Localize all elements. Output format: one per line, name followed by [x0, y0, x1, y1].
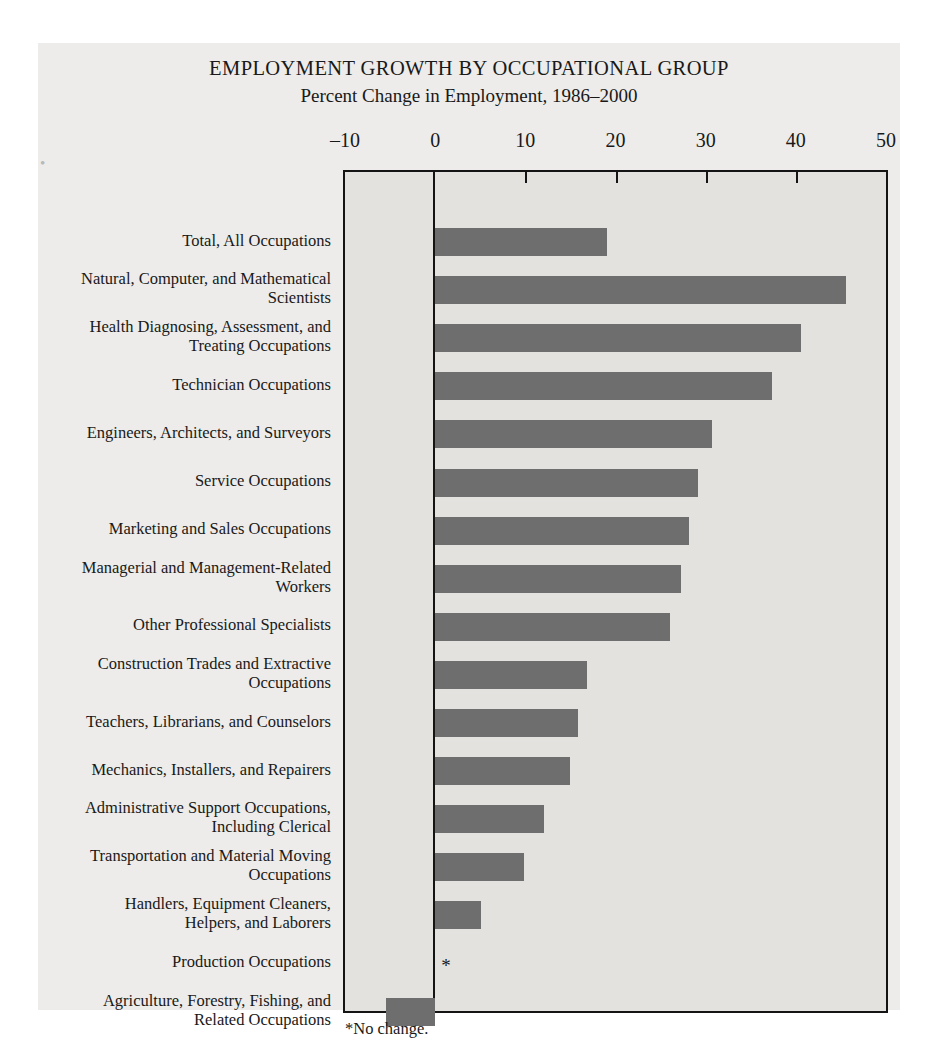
category-label-line: Treating Occupations: [38, 336, 331, 355]
x-tick-mark-5: [796, 172, 798, 183]
bar: [435, 613, 669, 641]
bar: [435, 324, 801, 352]
category-label-line: Production Occupations: [38, 952, 331, 971]
bar: [435, 901, 481, 929]
x-tick-label-1: 0: [430, 129, 440, 152]
category-label-line: Occupations: [38, 673, 331, 692]
x-tick-label-0: –10: [330, 129, 360, 152]
category-label-line: Managerial and Management-Related: [38, 558, 331, 577]
category-label-line: Teachers, Librarians, and Counselors: [38, 712, 331, 731]
chart-title: EMPLOYMENT GROWTH BY OCCUPATIONAL GROUP: [38, 57, 900, 80]
category-label-line: Workers: [38, 577, 331, 596]
x-tick-label-6: 50: [876, 129, 896, 152]
category-label: Total, All Occupations: [38, 231, 331, 250]
x-tick-label-5: 40: [786, 129, 806, 152]
category-label-line: Total, All Occupations: [38, 231, 331, 250]
category-label-line: Related Occupations: [38, 1010, 331, 1029]
category-label-line: Administrative Support Occupations,: [38, 798, 331, 817]
category-label-line: Service Occupations: [38, 471, 331, 490]
category-label-line: Agriculture, Forestry, Fishing, and: [38, 991, 331, 1010]
category-label: Managerial and Management-RelatedWorkers: [38, 558, 331, 596]
category-label: Marketing and Sales Occupations: [38, 519, 331, 538]
category-label-line: Scientists: [38, 288, 331, 307]
x-tick-mark-4: [706, 172, 708, 183]
bar: [435, 420, 712, 448]
bar: [435, 661, 586, 689]
category-label: Agriculture, Forestry, Fishing, andRelat…: [38, 991, 331, 1029]
category-label-line: Construction Trades and Extractive: [38, 654, 331, 673]
bar: [435, 517, 689, 545]
no-change-marker: *: [441, 956, 451, 975]
category-label: Health Diagnosing, Assessment, andTreati…: [38, 317, 331, 355]
chart-footnote: *No change.: [345, 1019, 428, 1039]
bar: [435, 565, 681, 593]
bar: [435, 853, 524, 881]
category-label: Technician Occupations: [38, 375, 331, 394]
category-label-line: Including Clerical: [38, 817, 331, 836]
category-label: Service Occupations: [38, 471, 331, 490]
x-tick-label-4: 30: [696, 129, 716, 152]
x-tick-mark-2: [525, 172, 527, 183]
chart-subtitle: Percent Change in Employment, 1986–2000: [38, 85, 900, 107]
x-tick-mark-3: [616, 172, 618, 183]
x-tick-label-2: 10: [515, 129, 535, 152]
category-label-line: Handlers, Equipment Cleaners,: [38, 894, 331, 913]
category-label: Construction Trades and ExtractiveOccupa…: [38, 654, 331, 692]
category-label: Transportation and Material MovingOccupa…: [38, 846, 331, 884]
category-label: Handlers, Equipment Cleaners,Helpers, an…: [38, 894, 331, 932]
category-label-line: Occupations: [38, 865, 331, 884]
category-label-line: Other Professional Specialists: [38, 615, 331, 634]
bar: [435, 709, 577, 737]
bar: [435, 228, 607, 256]
category-label-line: Helpers, and Laborers: [38, 913, 331, 932]
category-label: Other Professional Specialists: [38, 615, 331, 634]
bar: [435, 805, 544, 833]
category-label: Administrative Support Occupations,Inclu…: [38, 798, 331, 836]
bar: [435, 372, 772, 400]
category-axis-labels: Total, All OccupationsNatural, Computer,…: [38, 170, 337, 1013]
category-label: Engineers, Architects, and Surveyors: [38, 423, 331, 442]
category-label: Teachers, Librarians, and Counselors: [38, 712, 331, 731]
x-tick-label-3: 20: [606, 129, 626, 152]
bar: [435, 469, 697, 497]
bar: [435, 276, 846, 304]
category-label-line: Transportation and Material Moving: [38, 846, 331, 865]
plot-area: *: [343, 170, 888, 1013]
category-label-line: Health Diagnosing, Assessment, and: [38, 317, 331, 336]
bar: [435, 757, 570, 785]
category-label-line: Technician Occupations: [38, 375, 331, 394]
chart-page: • EMPLOYMENT GROWTH BY OCCUPATIONAL GROU…: [38, 43, 900, 1010]
category-label-line: Mechanics, Installers, and Repairers: [38, 760, 331, 779]
category-label: Mechanics, Installers, and Repairers: [38, 760, 331, 779]
category-label-line: Marketing and Sales Occupations: [38, 519, 331, 538]
page-edge-mark: •: [40, 155, 54, 169]
category-label-line: Natural, Computer, and Mathematical: [38, 269, 331, 288]
category-label: Production Occupations: [38, 952, 331, 971]
category-label: Natural, Computer, and MathematicalScien…: [38, 269, 331, 307]
category-label-line: Engineers, Architects, and Surveyors: [38, 423, 331, 442]
